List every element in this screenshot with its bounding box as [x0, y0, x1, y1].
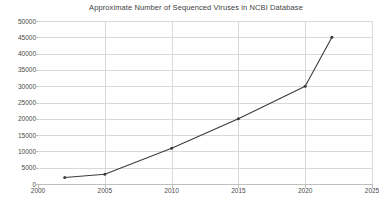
gridline-vertical [372, 21, 373, 184]
data-point-marker [170, 147, 173, 150]
y-axis-tick-label: 5000 [22, 164, 36, 171]
x-axis-tick-mark [372, 185, 373, 188]
y-axis-tick-label: 20000 [18, 115, 36, 122]
x-axis-tick-label: 2000 [31, 187, 45, 194]
y-axis-tick-label: 10000 [18, 148, 36, 155]
x-axis-tick-mark [105, 185, 106, 188]
data-point-marker [330, 36, 333, 39]
x-axis-line [38, 184, 373, 185]
series-polyline [65, 37, 332, 177]
series-markers [63, 36, 333, 179]
plot-area [38, 21, 372, 184]
x-axis-tick-mark [238, 185, 239, 188]
y-axis-tick-label: 45000 [18, 34, 36, 41]
x-axis-tick-label: 2005 [98, 187, 112, 194]
chart-figure: Approximate Number of Sequenced Viruses … [0, 0, 392, 209]
chart-title: Approximate Number of Sequenced Viruses … [0, 3, 392, 12]
data-point-marker [237, 117, 240, 120]
y-axis-tick-label: 15000 [18, 132, 36, 139]
y-axis-tick-label: 30000 [18, 83, 36, 90]
x-axis-tick-label: 2020 [298, 187, 312, 194]
x-axis-tick-mark [172, 185, 173, 188]
y-axis-tick-label: 50000 [18, 18, 36, 25]
data-point-marker [63, 176, 66, 179]
x-axis-tick-mark [38, 185, 39, 188]
line-series [38, 21, 372, 184]
x-axis-tick-label: 2015 [231, 187, 245, 194]
data-point-marker [103, 173, 106, 176]
y-axis-tick-label: 25000 [18, 99, 36, 106]
x-axis-tick-label: 2010 [164, 187, 178, 194]
x-axis-tick-label: 2025 [365, 187, 379, 194]
y-axis-tick-label: 35000 [18, 66, 36, 73]
data-point-marker [304, 85, 307, 88]
x-axis-tick-mark [305, 185, 306, 188]
y-axis-tick-label: 40000 [18, 50, 36, 57]
